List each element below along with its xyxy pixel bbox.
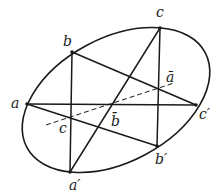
vertex-dots xyxy=(25,26,198,174)
line-c-b-prime xyxy=(157,28,160,146)
line-b-c-prime xyxy=(72,52,196,105)
point-a-prime xyxy=(68,170,72,174)
point-c-prime xyxy=(194,103,198,107)
label-c-lower: c xyxy=(59,120,67,136)
point-c xyxy=(158,26,162,30)
label-b: b xyxy=(63,33,72,49)
point-b xyxy=(70,50,74,54)
line-b-a-prime xyxy=(70,52,72,172)
line-c-a-prime xyxy=(70,28,160,172)
point-a xyxy=(25,102,29,106)
label-a-bar: ā xyxy=(166,69,174,85)
label-c-prime: c′ xyxy=(199,106,211,122)
diagram-canvas: a b c c′ b′ a′ ā b̄ c xyxy=(0,0,224,193)
label-c: c xyxy=(156,4,164,20)
point-b-prime xyxy=(155,144,159,148)
label-b-prime: b′ xyxy=(155,151,168,167)
label-a-prime: a′ xyxy=(69,177,81,193)
label-a: a xyxy=(11,95,19,111)
hexagon-lines xyxy=(27,28,196,172)
label-b-bar: b̄ xyxy=(111,112,120,129)
conic-ellipse xyxy=(0,0,224,193)
